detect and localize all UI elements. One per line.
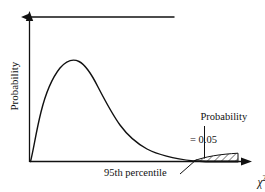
percentile-annotation: 95th percentile: [104, 167, 167, 179]
tail-probability-annotation: Probability = 0.05: [190, 99, 247, 170]
tail-probability-line1: Probability: [201, 111, 248, 122]
y-axis-label: Probability: [8, 50, 20, 122]
chi-square-distribution-figure: Probability Probability = 0.05 95th perc…: [0, 0, 265, 192]
x-axis-label: χ2: [246, 163, 265, 192]
chi-exponent: 2: [263, 174, 265, 183]
tail-probability-line2: = 0.05: [190, 134, 247, 146]
